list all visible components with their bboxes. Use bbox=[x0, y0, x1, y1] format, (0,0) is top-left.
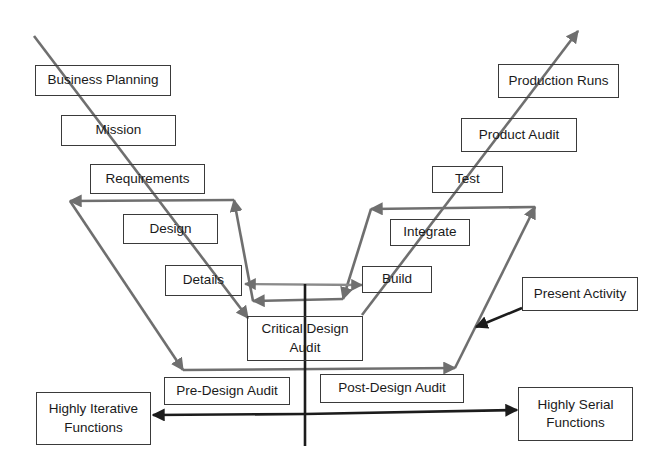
label-highly-iterative-line1: Highly Iterative bbox=[49, 400, 138, 418]
label-highly-serial-line1: Highly Serial bbox=[538, 396, 614, 414]
axis-arrow-right bbox=[305, 410, 517, 414]
box-highly-serial-functions: Highly Serial Functions bbox=[518, 387, 633, 441]
label-business-planning: Business Planning bbox=[47, 71, 158, 89]
box-pre-design-audit: Pre-Design Audit bbox=[164, 377, 290, 405]
label-present-activity: Present Activity bbox=[534, 285, 626, 303]
box-highly-iterative-functions: Highly Iterative Functions bbox=[36, 392, 151, 445]
box-build: Build bbox=[362, 266, 432, 293]
axis-arrow-left bbox=[153, 414, 305, 415]
box-post-design-audit: Post-Design Audit bbox=[320, 374, 464, 403]
label-mission: Mission bbox=[96, 121, 142, 139]
label-pre-design-audit: Pre-Design Audit bbox=[176, 382, 277, 400]
label-highly-serial-line2: Functions bbox=[546, 414, 605, 432]
details-build-double-arrow bbox=[245, 284, 362, 285]
label-critical-design-audit-line2: Audit bbox=[290, 339, 321, 357]
box-product-audit: Product Audit bbox=[461, 118, 577, 152]
label-highly-iterative-line2: Functions bbox=[64, 419, 123, 437]
box-requirements: Requirements bbox=[90, 164, 205, 194]
box-mission: Mission bbox=[61, 115, 176, 146]
box-business-planning: Business Planning bbox=[35, 65, 171, 96]
box-test: Test bbox=[432, 166, 503, 193]
label-build: Build bbox=[382, 270, 412, 288]
label-post-design-audit: Post-Design Audit bbox=[338, 379, 445, 397]
inner-path-bottom bbox=[253, 299, 343, 301]
box-integrate: Integrate bbox=[390, 219, 470, 246]
outer-loop-bottom bbox=[183, 368, 455, 370]
label-test: Test bbox=[455, 170, 480, 188]
box-production-runs: Production Runs bbox=[498, 64, 619, 98]
outer-loop-top-right bbox=[371, 207, 535, 209]
label-production-runs: Production Runs bbox=[509, 72, 609, 90]
label-design: Design bbox=[149, 220, 191, 238]
box-design: Design bbox=[123, 214, 218, 244]
box-present-activity: Present Activity bbox=[522, 277, 638, 311]
outer-loop-top-left bbox=[70, 200, 234, 201]
label-details: Details bbox=[183, 271, 224, 289]
label-product-audit: Product Audit bbox=[479, 126, 559, 144]
box-details: Details bbox=[165, 265, 242, 296]
box-critical-design-audit: Critical Design Audit bbox=[247, 316, 363, 361]
label-integrate: Integrate bbox=[403, 223, 456, 241]
label-requirements: Requirements bbox=[105, 170, 189, 188]
label-critical-design-audit-line1: Critical Design bbox=[261, 320, 348, 338]
